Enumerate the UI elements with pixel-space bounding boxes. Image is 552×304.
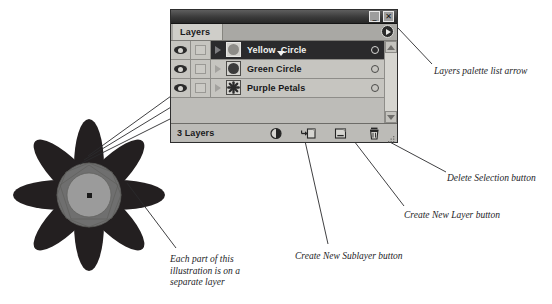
- target-indicator-yellow-circle[interactable]: [369, 41, 383, 59]
- layers-list: Yellow Circle: [171, 41, 397, 124]
- lock-toggle-yellow-circle[interactable]: [191, 41, 211, 59]
- eye-icon: [174, 84, 187, 92]
- lock-icon: [195, 45, 206, 55]
- callout-create-new-layer-button: Create New Layer button: [404, 210, 500, 222]
- callout-each-part-separate-layer: Each part of this illustration is on a s…: [170, 254, 240, 289]
- triangle-right-icon: [215, 65, 221, 73]
- chevron-down-icon: [387, 115, 395, 120]
- target-indicator-green-circle[interactable]: [369, 60, 383, 78]
- thumbnail-frame: [226, 42, 241, 57]
- expand-arrow-green-circle[interactable]: [211, 60, 225, 78]
- palette-title-bar[interactable]: _ ✕: [171, 10, 397, 24]
- lock-toggle-green-circle[interactable]: [191, 60, 211, 78]
- table-row[interactable]: Purple Petals: [171, 79, 397, 98]
- flower-center-anchor: [87, 193, 92, 198]
- callout-create-new-sublayer-button: Create New Sublayer button: [295, 251, 403, 263]
- thumbnail-frame: [226, 80, 241, 95]
- resize-grip[interactable]: [386, 130, 396, 140]
- layer-thumbnail-yellow-circle[interactable]: [225, 41, 243, 59]
- layer-thumbnail-green-circle[interactable]: [225, 60, 243, 78]
- table-row[interactable]: Yellow Circle: [171, 41, 397, 60]
- half-filled-circle-icon: [269, 127, 284, 140]
- layers-scrollbar[interactable]: [384, 41, 397, 123]
- layer-name-yellow-circle[interactable]: Yellow Circle: [243, 45, 369, 55]
- target-circle-icon: [371, 84, 379, 92]
- triangle-right-icon: [386, 29, 391, 35]
- star-shape-icon: [227, 81, 240, 94]
- lock-icon: [195, 83, 206, 93]
- circle-shape-icon: [228, 44, 239, 55]
- tab-layers[interactable]: Layers: [173, 24, 223, 40]
- palette-tab-strip: Layers: [171, 24, 397, 41]
- make-clipping-mask-button[interactable]: [269, 126, 284, 139]
- palette-menu-arrow-icon[interactable]: [381, 25, 394, 38]
- expand-arrow-yellow-circle[interactable]: [211, 41, 225, 59]
- eight-petal-flower-illustration: [8, 115, 170, 275]
- layer-name-purple-petals[interactable]: Purple Petals: [243, 83, 369, 93]
- scroll-down-button[interactable]: [385, 111, 397, 123]
- target-circle-icon: [371, 65, 379, 73]
- triangle-right-icon: [215, 84, 221, 92]
- callout-layers-palette-list-arrow: Layers palette list arrow: [434, 66, 527, 78]
- visibility-toggle-yellow-circle[interactable]: [171, 41, 191, 59]
- layer-count-label: 3 Layers: [171, 128, 214, 138]
- create-new-layer-button[interactable]: [333, 126, 348, 139]
- delete-selection-button[interactable]: [367, 126, 382, 139]
- visibility-toggle-green-circle[interactable]: [171, 60, 191, 78]
- palette-status-bar: 3 Layers: [171, 124, 397, 141]
- circle-shape-icon: [228, 63, 239, 74]
- triangle-right-icon: [215, 46, 221, 54]
- figure-root: _ ✕ Layers: [0, 0, 552, 304]
- scrollbar-track[interactable]: [385, 53, 397, 111]
- expand-arrow-purple-petals[interactable]: [211, 79, 225, 97]
- layers-palette-window[interactable]: _ ✕ Layers: [170, 9, 398, 143]
- eye-icon: [174, 65, 187, 73]
- close-button[interactable]: ✕: [383, 11, 394, 22]
- table-row[interactable]: Green Circle: [171, 60, 397, 79]
- minimize-button[interactable]: _: [369, 11, 380, 22]
- lock-toggle-purple-petals[interactable]: [191, 79, 211, 97]
- scroll-up-button[interactable]: [385, 41, 397, 53]
- new-page-icon: [333, 127, 348, 140]
- callout-delete-selection-button: Delete Selection button: [447, 173, 536, 185]
- lock-icon: [195, 64, 206, 74]
- create-new-sublayer-button[interactable]: [301, 126, 316, 139]
- layer-name-green-circle[interactable]: Green Circle: [243, 64, 369, 74]
- chevron-up-icon: [387, 45, 395, 50]
- eye-icon: [174, 46, 187, 54]
- thumbnail-frame: [226, 61, 241, 76]
- layer-thumbnail-purple-petals[interactable]: [225, 79, 243, 97]
- resize-dots-icon: [386, 134, 396, 144]
- text-cursor-icon: [277, 51, 285, 56]
- arrow-into-page-icon: [301, 127, 316, 140]
- trash-can-icon: [367, 127, 382, 140]
- target-indicator-purple-petals[interactable]: [369, 79, 383, 97]
- visibility-toggle-purple-petals[interactable]: [171, 79, 191, 97]
- target-circle-icon: [371, 46, 379, 54]
